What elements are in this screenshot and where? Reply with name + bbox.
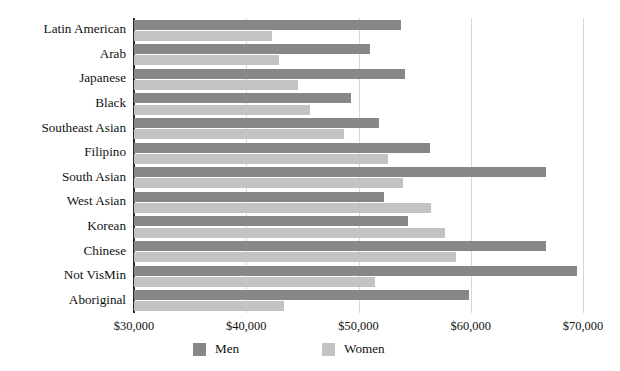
legend-entry-men[interactable]: Men <box>193 342 239 356</box>
legend-label: Men <box>215 342 239 356</box>
x-tick-label: $40,000 <box>226 319 266 334</box>
category-label: Aboriginal <box>0 293 126 307</box>
bar-women <box>134 203 431 213</box>
legend-swatch-icon <box>322 343 335 356</box>
x-axis: $30,000$40,000$50,000$60,000$70,000 <box>134 313 583 339</box>
bar-men <box>134 69 405 79</box>
category-label: Not VisMin <box>0 268 126 282</box>
bar-men <box>134 44 370 54</box>
legend-entry-women[interactable]: Women <box>322 342 385 356</box>
bar-men <box>134 266 577 276</box>
category-label: Japanese <box>0 71 126 85</box>
category-label: Filipino <box>0 145 126 159</box>
category-label: Arab <box>0 47 126 61</box>
bar-men <box>134 118 379 128</box>
bar-women <box>134 277 375 287</box>
category-axis: Latin AmericanArabJapaneseBlackSoutheast… <box>0 18 130 313</box>
category-label: Korean <box>0 219 126 233</box>
x-tick-label: $30,000 <box>114 319 154 334</box>
x-tick-label: $70,000 <box>563 319 603 334</box>
chart-legend: MenWomen <box>0 342 620 366</box>
bar-women <box>134 55 279 65</box>
bar-men <box>134 241 546 251</box>
bar-men <box>134 167 546 177</box>
bar-women <box>134 228 445 238</box>
bar-women <box>134 31 272 41</box>
bar-women <box>134 252 456 262</box>
gridline <box>583 18 584 313</box>
bar-women <box>134 80 298 90</box>
bar-men <box>134 143 430 153</box>
bar-men <box>134 93 351 103</box>
category-label: South Asian <box>0 170 126 184</box>
x-tick-label: $60,000 <box>451 319 491 334</box>
bar-men <box>134 20 401 30</box>
legend-swatch-icon <box>193 343 206 356</box>
category-label: Southeast Asian <box>0 121 126 135</box>
category-label: Black <box>0 96 126 110</box>
bar-men <box>134 192 384 202</box>
x-tick-label: $50,000 <box>338 319 378 334</box>
bar-women <box>134 301 284 311</box>
bar-women <box>134 129 344 139</box>
legend-label: Women <box>344 342 385 356</box>
category-label: Latin American <box>0 22 126 36</box>
bar-women <box>134 178 403 188</box>
plot-area <box>134 18 583 313</box>
bar-men <box>134 216 408 226</box>
bar-men <box>134 290 469 300</box>
category-label: West Asian <box>0 194 126 208</box>
category-label: Chinese <box>0 244 126 258</box>
bar-women <box>134 105 310 115</box>
income-by-group-bar-chart: Latin AmericanArabJapaneseBlackSoutheast… <box>0 0 620 371</box>
bar-women <box>134 154 388 164</box>
